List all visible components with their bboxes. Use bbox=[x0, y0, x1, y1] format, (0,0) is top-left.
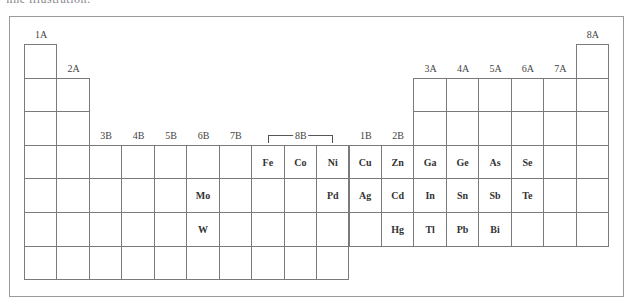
empty-cell bbox=[543, 78, 576, 113]
element-cell-in: In bbox=[413, 178, 446, 213]
group-label-3b: 3B bbox=[90, 130, 122, 141]
empty-cell bbox=[576, 78, 609, 113]
empty-cell bbox=[89, 178, 122, 213]
element-cell-se: Se bbox=[511, 145, 544, 180]
element-cell-ga: Ga bbox=[413, 145, 446, 180]
empty-cell bbox=[24, 78, 57, 113]
empty-cell bbox=[576, 111, 609, 146]
empty-cell bbox=[24, 212, 57, 247]
empty-cell bbox=[284, 178, 317, 213]
empty-cell bbox=[219, 212, 252, 247]
empty-cell bbox=[251, 246, 284, 281]
group-label-3a: 3A bbox=[415, 63, 447, 74]
empty-cell bbox=[154, 246, 187, 281]
empty-cell bbox=[543, 111, 576, 146]
empty-cell bbox=[543, 145, 576, 180]
group-label-5b: 5B bbox=[155, 130, 187, 141]
empty-cell bbox=[576, 178, 609, 213]
empty-cell bbox=[56, 212, 89, 247]
empty-cell bbox=[24, 44, 57, 79]
empty-cell bbox=[154, 212, 187, 247]
element-cell-sb: Sb bbox=[478, 178, 511, 213]
element-cell-ge: Ge bbox=[446, 145, 479, 180]
group-label-6a: 6A bbox=[512, 63, 544, 74]
empty-cell bbox=[219, 246, 252, 281]
group-label-6b: 6B bbox=[187, 130, 219, 141]
element-cell-pb: Pb bbox=[446, 212, 479, 247]
empty-cell bbox=[24, 178, 57, 213]
group-label-4b: 4B bbox=[123, 130, 155, 141]
element-cell-bi: Bi bbox=[478, 212, 511, 247]
caption-fragment: ﬁne illustration: bbox=[6, 0, 91, 7]
element-cell-sn: Sn bbox=[446, 178, 479, 213]
empty-cell bbox=[284, 246, 317, 281]
empty-cell bbox=[446, 78, 479, 113]
group-label-1b: 1B bbox=[350, 130, 382, 141]
element-cell-te: Te bbox=[511, 178, 544, 213]
empty-cell bbox=[186, 145, 219, 180]
empty-cell bbox=[511, 78, 544, 113]
element-cell-pd: Pd bbox=[316, 178, 349, 213]
group-label-4a: 4A bbox=[447, 63, 479, 74]
empty-cell bbox=[121, 178, 154, 213]
empty-cell bbox=[56, 145, 89, 180]
empty-cell bbox=[154, 145, 187, 180]
empty-cell bbox=[56, 246, 89, 281]
group-label-2a: 2A bbox=[58, 63, 90, 74]
empty-cell bbox=[121, 145, 154, 180]
group-label-8b: 8B bbox=[293, 129, 309, 140]
group-label-1a: 1A bbox=[25, 29, 57, 40]
empty-cell bbox=[251, 178, 284, 213]
empty-cell bbox=[219, 178, 252, 213]
empty-cell bbox=[316, 246, 349, 281]
empty-cell bbox=[56, 111, 89, 146]
empty-cell bbox=[543, 178, 576, 213]
empty-cell bbox=[121, 212, 154, 247]
empty-cell bbox=[576, 145, 609, 180]
empty-cell bbox=[154, 178, 187, 213]
empty-cell bbox=[24, 246, 57, 281]
empty-cell bbox=[186, 246, 219, 281]
empty-cell bbox=[543, 212, 576, 247]
empty-cell bbox=[24, 111, 57, 146]
group-label-2b: 2B bbox=[382, 130, 414, 141]
empty-cell bbox=[24, 145, 57, 180]
empty-cell bbox=[251, 212, 284, 247]
empty-cell bbox=[121, 246, 154, 281]
empty-cell bbox=[89, 246, 122, 281]
element-cell-mo: Mo bbox=[186, 178, 219, 213]
element-cell-co: Co bbox=[284, 145, 317, 180]
empty-cell bbox=[89, 145, 122, 180]
empty-cell bbox=[413, 111, 446, 146]
empty-cell bbox=[446, 111, 479, 146]
group-label-7b: 7B bbox=[220, 130, 252, 141]
element-cell-cu: Cu bbox=[349, 145, 382, 180]
empty-cell bbox=[56, 178, 89, 213]
empty-cell bbox=[511, 111, 544, 146]
empty-cell bbox=[56, 78, 89, 113]
empty-cell bbox=[576, 212, 609, 247]
empty-cell bbox=[413, 78, 446, 113]
element-cell-zn: Zn bbox=[381, 145, 414, 180]
empty-cell bbox=[576, 44, 609, 79]
element-cell-fe: Fe bbox=[251, 145, 284, 180]
group-label-5a: 5A bbox=[480, 63, 512, 74]
element-cell-ni: Ni bbox=[316, 145, 349, 180]
group-label-7a: 7A bbox=[544, 63, 576, 74]
empty-cell bbox=[511, 212, 544, 247]
empty-cell bbox=[89, 212, 122, 247]
element-cell-tl: Tl bbox=[413, 212, 446, 247]
element-cell-w: W bbox=[186, 212, 219, 247]
empty-cell bbox=[349, 212, 382, 247]
empty-cell bbox=[219, 145, 252, 180]
element-cell-hg: Hg bbox=[381, 212, 414, 247]
empty-cell bbox=[284, 212, 317, 247]
empty-cell bbox=[478, 78, 511, 113]
element-cell-ag: Ag bbox=[349, 178, 382, 213]
empty-cell bbox=[316, 212, 349, 247]
group-label-8a: 8A bbox=[577, 29, 609, 40]
empty-cell bbox=[478, 111, 511, 146]
element-cell-as: As bbox=[478, 145, 511, 180]
element-cell-cd: Cd bbox=[381, 178, 414, 213]
